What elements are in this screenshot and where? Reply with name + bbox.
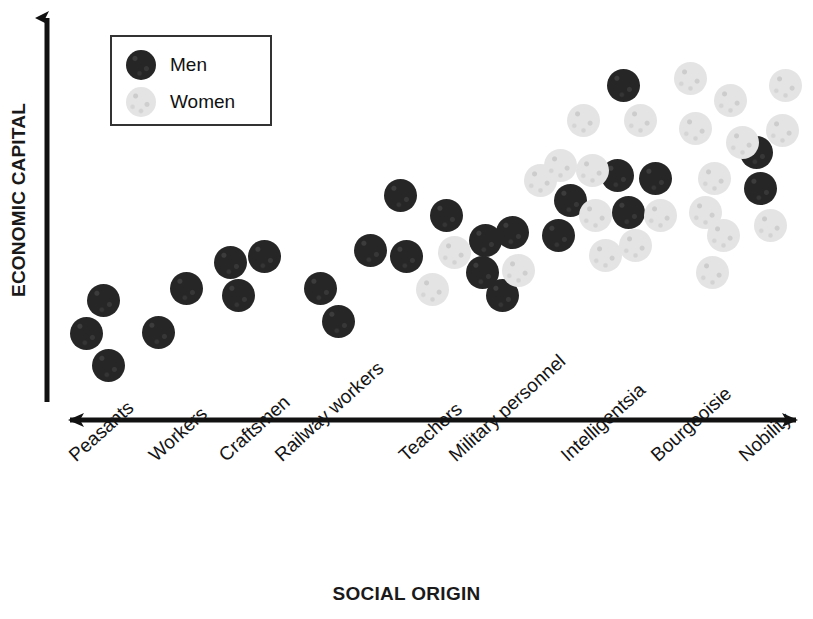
- data-point-women: [502, 254, 535, 287]
- x-axis-label-workers: Workers: [145, 403, 212, 466]
- data-point-men: [87, 284, 120, 317]
- data-point-men: [384, 179, 417, 212]
- data-point-women: [438, 236, 471, 269]
- data-point-women: [416, 273, 449, 306]
- data-point-women: [579, 199, 612, 232]
- data-point-women: [576, 154, 609, 187]
- data-point-women: [714, 84, 747, 117]
- x-axis-label-military-personnel: Military personnel: [445, 350, 570, 466]
- x-axis-label-nobility: Nobility: [735, 408, 796, 466]
- data-point-women: [674, 62, 707, 95]
- data-point-women: [624, 104, 657, 137]
- data-point-men: [304, 272, 337, 305]
- scatter-chart: ECONOMIC CAPITAL SOCIAL ORIGIN Men Women…: [0, 0, 813, 619]
- data-point-women: [644, 199, 677, 232]
- data-point-women: [696, 256, 729, 289]
- data-point-men: [142, 316, 175, 349]
- x-axis-label-bourgeoisie: Bourgeoisie: [647, 383, 736, 466]
- legend-label-men: Men: [170, 55, 207, 74]
- data-point-women: [766, 114, 799, 147]
- legend-swatch-men: [126, 50, 156, 80]
- legend-swatch-women: [126, 87, 156, 117]
- data-point-men: [322, 305, 355, 338]
- legend-label-women: Women: [170, 92, 235, 111]
- data-point-women: [544, 149, 577, 182]
- data-point-men: [92, 349, 125, 382]
- data-point-men: [639, 162, 672, 195]
- x-axis-title: SOCIAL ORIGIN: [0, 583, 813, 605]
- data-point-men: [248, 240, 281, 273]
- data-point-men: [612, 196, 645, 229]
- legend-item-men: Men: [126, 46, 270, 83]
- data-point-men: [496, 216, 529, 249]
- x-axis-label-intelligentsia: Intelligentsia: [557, 379, 650, 466]
- data-point-men: [430, 199, 463, 232]
- data-point-men: [542, 219, 575, 252]
- data-point-women: [698, 162, 731, 195]
- legend-item-women: Women: [126, 83, 270, 120]
- data-point-women: [726, 126, 759, 159]
- data-point-men: [222, 279, 255, 312]
- data-point-men: [390, 240, 423, 273]
- data-point-men: [70, 317, 103, 350]
- data-point-women: [619, 229, 652, 262]
- data-point-men: [607, 69, 640, 102]
- data-point-men: [214, 246, 247, 279]
- legend: Men Women: [110, 35, 272, 126]
- data-point-men: [170, 272, 203, 305]
- y-axis-title: ECONOMIC CAPITAL: [2, 0, 36, 400]
- data-point-women: [769, 69, 802, 102]
- data-point-women: [707, 219, 740, 252]
- data-point-women: [567, 104, 600, 137]
- x-axis-label-peasants: Peasants: [65, 397, 139, 466]
- data-point-women: [754, 209, 787, 242]
- data-point-men: [354, 234, 387, 267]
- data-point-men: [744, 172, 777, 205]
- data-point-women: [679, 112, 712, 145]
- data-point-women: [589, 239, 622, 272]
